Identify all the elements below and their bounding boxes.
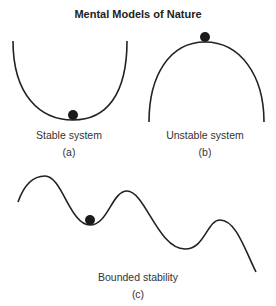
letter-a: (a): [9, 146, 129, 158]
caption-bounded: Bounded stability: [78, 271, 198, 283]
ball-unstable: [200, 32, 210, 42]
ball-bounded: [85, 215, 95, 225]
unstable-hill-curve: [149, 42, 264, 122]
caption-unstable: Unstable system: [145, 129, 265, 141]
bounded-stability-wave: [18, 176, 256, 272]
letter-b: (b): [145, 146, 265, 158]
letter-c: (c): [78, 288, 198, 300]
ball-stable: [68, 110, 78, 120]
stable-valley-curve: [13, 41, 127, 120]
caption-stable: Stable system: [9, 129, 129, 141]
